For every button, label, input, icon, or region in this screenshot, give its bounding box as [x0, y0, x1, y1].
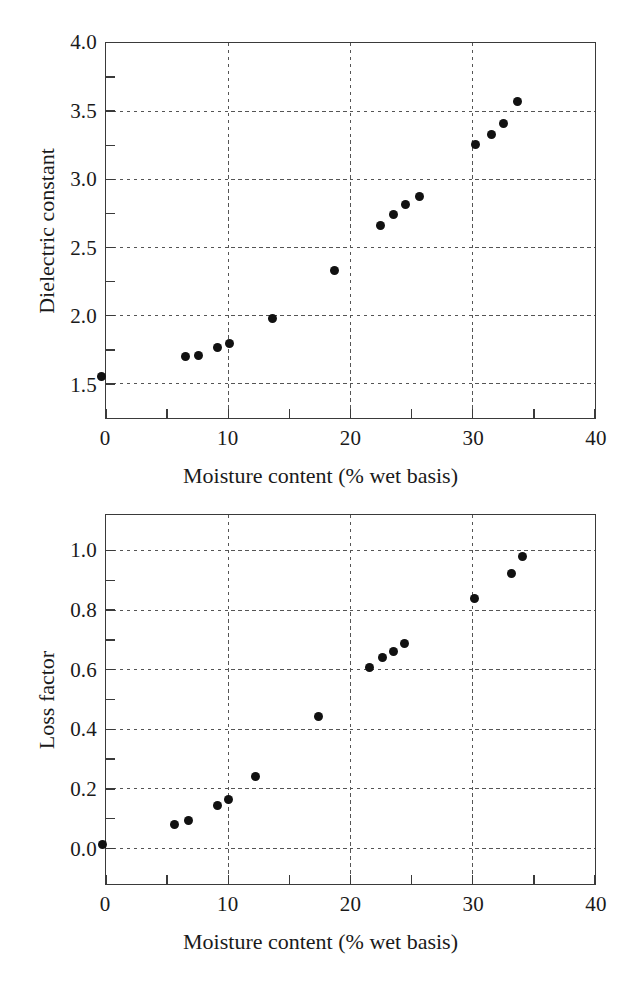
- tickmarks-dielectric: [106, 43, 595, 418]
- data-point: [499, 119, 508, 128]
- x-tick-label: 30: [463, 428, 484, 449]
- x-tick-label: 10: [217, 428, 238, 449]
- data-point: [415, 192, 424, 201]
- x-tick-label: 20: [340, 428, 361, 449]
- gridlines-loss-factor: [106, 515, 595, 884]
- data-points-loss-factor: [106, 515, 595, 884]
- data-point: [376, 221, 385, 230]
- y-tick-label: 0.0: [70, 839, 97, 860]
- tickmarks-loss-factor: [106, 515, 595, 884]
- x-tick-label: 30: [463, 894, 484, 915]
- data-point: [251, 772, 260, 781]
- data-point: [170, 820, 179, 829]
- x-tick-label: 0: [100, 428, 111, 449]
- y-tick-label: 4.0: [70, 32, 97, 53]
- data-point: [513, 97, 522, 106]
- data-point: [389, 210, 398, 219]
- y-tick-label: 2.5: [70, 237, 97, 258]
- y-tick-label: 3.0: [70, 169, 97, 190]
- x-axis-title-dielectric: Moisture content (% wet basis): [0, 463, 641, 489]
- data-point: [330, 266, 339, 275]
- panel-dielectric-constant: 010203040 1.52.02.53.03.54.0 Moisture co…: [0, 0, 641, 494]
- y-tick-label: 1.5: [70, 374, 97, 395]
- data-point: [181, 352, 190, 361]
- data-point: [98, 840, 107, 849]
- y-tick-label: 0.2: [70, 779, 97, 800]
- data-point: [213, 801, 222, 810]
- x-tick-label: 40: [585, 428, 606, 449]
- data-point: [401, 200, 410, 209]
- x-tick-label: 0: [100, 894, 111, 915]
- y-tick-label: 0.6: [70, 659, 97, 680]
- y-tick-label: 1.0: [70, 539, 97, 560]
- data-point: [184, 816, 193, 825]
- data-point: [518, 552, 527, 561]
- data-point: [378, 653, 387, 662]
- data-point: [194, 351, 203, 360]
- plot-area-loss-factor: [105, 514, 596, 885]
- figure-two-panel-scatter: 010203040 1.52.02.53.03.54.0 Moisture co…: [0, 0, 641, 988]
- data-point: [487, 130, 496, 139]
- x-axis-title-loss-factor: Moisture content (% wet basis): [0, 929, 641, 955]
- data-point: [225, 339, 234, 348]
- data-point: [97, 372, 106, 381]
- data-points-dielectric: [106, 43, 595, 418]
- plot-area-dielectric-constant: [105, 42, 596, 419]
- y-axis-title-dielectric: Dielectric constant: [34, 148, 60, 314]
- data-point: [224, 795, 233, 804]
- y-tick-label: 0.4: [70, 719, 97, 740]
- y-axis-title-loss-factor: Loss factor: [34, 650, 60, 748]
- x-tick-label: 20: [340, 894, 361, 915]
- data-point: [507, 569, 516, 578]
- data-point: [400, 639, 409, 648]
- y-tick-label: 3.5: [70, 100, 97, 121]
- y-tick-label: 2.0: [70, 306, 97, 327]
- data-point: [365, 663, 374, 672]
- panel-loss-factor: 010203040 0.00.20.40.60.81.0 Moisture co…: [0, 494, 641, 988]
- x-tick-label: 10: [217, 894, 238, 915]
- data-point: [213, 343, 222, 352]
- y-tick-label: 0.8: [70, 599, 97, 620]
- gridlines-dielectric: [106, 43, 595, 418]
- data-point: [314, 712, 323, 721]
- data-point: [268, 314, 277, 323]
- data-point: [471, 140, 480, 149]
- data-point: [470, 594, 479, 603]
- data-point: [389, 647, 398, 656]
- x-tick-label: 40: [585, 894, 606, 915]
